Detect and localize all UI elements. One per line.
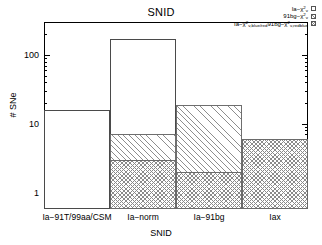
y-tick-minor: [44, 76, 47, 77]
chart-figure: SNID # SNe SNID 110100 Ia−91T/99aa/CSMIa…: [0, 0, 322, 245]
x-tick-label: Ia−91T/99aa/CSM: [42, 212, 111, 222]
y-tick-minor: [44, 70, 47, 71]
legend-swatch: [311, 21, 316, 26]
y-tick-major: [302, 55, 308, 56]
x-tick-label: Ia−norm: [127, 212, 158, 222]
legend-swatch: [311, 6, 316, 11]
legend: Ia−χ2ν91bg−χ2νIa−χ2ν,blue/red91bg−χ2ν,re…: [166, 5, 316, 28]
x-axis-label: SNID: [0, 228, 322, 238]
histogram-bar: [176, 172, 242, 209]
y-tick-minor: [44, 66, 47, 67]
y-tick-label: 100: [24, 50, 39, 60]
y-tick-minor: [44, 58, 47, 59]
y-tick-minor: [305, 70, 308, 71]
y-tick-minor: [305, 62, 308, 63]
y-tick-minor: [305, 82, 308, 83]
legend-item: Ia−χ2ν,blue/red91bg−χ2ν,redblue: [166, 20, 316, 28]
y-tick-label: 1: [34, 188, 39, 198]
plot-area: 110100 Ia−91T/99aa/CSMIa−normIa−91bgIax: [44, 22, 308, 208]
x-tick-label: Iax: [269, 212, 280, 222]
y-tick-minor: [305, 134, 308, 135]
y-tick-minor: [305, 91, 308, 92]
y-tick-minor: [44, 62, 47, 63]
y-tick-minor: [305, 103, 308, 104]
y-tick-minor: [305, 130, 308, 131]
y-tick-major: [302, 124, 308, 125]
histogram-bar: [110, 160, 176, 209]
y-axis-label: # SNe: [8, 75, 18, 135]
y-tick-minor: [44, 103, 47, 104]
y-tick-minor: [305, 76, 308, 77]
legend-swatch: [311, 14, 316, 19]
y-tick-minor: [44, 82, 47, 83]
y-tick-minor: [305, 58, 308, 59]
y-tick-label: 10: [29, 119, 39, 129]
histogram-bar: [242, 139, 308, 209]
legend-label: Ia−χ2ν,blue/red91bg−χ2ν,redblue: [234, 19, 308, 30]
y-tick-minor: [305, 66, 308, 67]
histogram-bar: [44, 110, 110, 209]
y-tick-minor: [305, 34, 308, 35]
y-tick-minor: [305, 127, 308, 128]
y-tick-minor: [44, 91, 47, 92]
x-tick-label: Ia−91bg: [194, 212, 225, 222]
y-tick-minor: [44, 22, 47, 23]
y-tick-major: [44, 55, 50, 56]
y-tick-minor: [44, 34, 47, 35]
